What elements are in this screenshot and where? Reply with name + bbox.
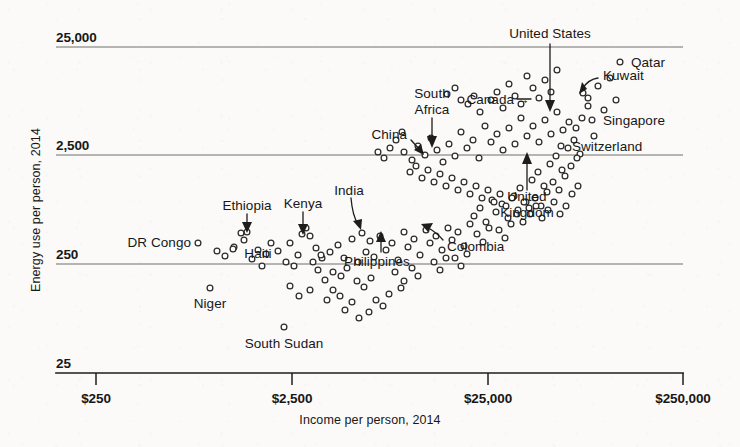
data-point [443, 255, 449, 261]
data-point [405, 244, 411, 250]
data-point [542, 77, 548, 83]
data-point [589, 117, 595, 123]
data-point [437, 267, 443, 273]
data-point [386, 291, 392, 297]
data-point [446, 141, 452, 147]
data-point [512, 141, 518, 147]
y-tick-label-2500: 2,500 [56, 138, 89, 153]
annotation-leaders [242, 44, 598, 252]
y-tick-label-250: 250 [56, 247, 78, 262]
data-point [536, 95, 542, 101]
data-point [569, 191, 575, 197]
data-point [483, 219, 489, 225]
data-point [337, 293, 343, 299]
label-haiti: Haiti [244, 246, 271, 261]
data-point [508, 221, 514, 227]
data-point [491, 199, 497, 205]
data-point [471, 213, 477, 219]
data-point [563, 203, 569, 209]
label-united-states: United States [509, 26, 591, 41]
data-point [295, 252, 301, 258]
data-point [392, 269, 398, 275]
leader-india [351, 198, 358, 224]
y-tick-labels: 25,000 2,500 250 25 [56, 30, 97, 371]
data-point [275, 248, 281, 254]
data-point [417, 252, 423, 258]
data-points [195, 59, 623, 330]
data-point [398, 285, 404, 291]
data-point [439, 247, 445, 253]
data-point [411, 236, 417, 242]
label-south-sudan: South Sudan [245, 336, 324, 351]
label-india: India [334, 183, 364, 198]
data-point [479, 195, 485, 201]
arrowhead-india [353, 219, 362, 230]
data-point [238, 230, 244, 236]
data-point [324, 297, 330, 303]
label-canada-arrow: → [516, 92, 530, 107]
data-point [354, 278, 360, 284]
data-point [349, 299, 355, 305]
data-point [359, 230, 365, 236]
data-point [470, 137, 476, 143]
data-point [458, 129, 464, 135]
data-point [318, 252, 324, 258]
data-point [493, 209, 499, 215]
data-point [283, 259, 289, 265]
data-point [617, 59, 623, 65]
label-united-kingdom-2: Kingdom [500, 205, 554, 220]
data-point [207, 285, 213, 291]
data-point [458, 263, 464, 269]
data-point [452, 255, 458, 261]
data-point [330, 269, 336, 275]
data-point [568, 163, 574, 169]
data-point [287, 240, 293, 246]
data-point [431, 179, 437, 185]
label-south-africa-1: South [414, 86, 450, 101]
data-point [315, 267, 321, 273]
data-point [535, 169, 541, 175]
data-point [342, 307, 348, 313]
data-point [327, 249, 333, 255]
gridlines [56, 47, 683, 264]
label-dr-congo: DR Congo [128, 235, 191, 250]
data-point [356, 315, 362, 321]
data-point [322, 277, 328, 283]
data-point [434, 147, 440, 153]
data-point [361, 284, 367, 290]
data-point [419, 175, 425, 181]
data-point [585, 95, 591, 101]
data-point [431, 259, 437, 265]
x-tick-labels: $250 $2,500 $25,000 $250,000 [81, 391, 711, 406]
data-point [383, 247, 389, 253]
data-point [467, 221, 473, 227]
data-point [338, 273, 344, 279]
data-point [281, 324, 287, 330]
data-point [476, 155, 482, 161]
data-point [380, 303, 386, 309]
data-point [473, 183, 479, 189]
label-china: China [371, 127, 407, 142]
data-point [440, 159, 446, 165]
data-point [573, 125, 579, 131]
data-point [387, 145, 393, 151]
data-point [565, 145, 571, 151]
data-point [452, 85, 458, 91]
data-point [486, 225, 492, 231]
data-point [477, 205, 483, 211]
data-point [497, 191, 503, 197]
data-point [562, 173, 568, 179]
data-point [482, 123, 488, 129]
data-point [548, 131, 554, 137]
label-canada: Canada [466, 92, 514, 107]
data-point [407, 169, 413, 175]
data-point [409, 157, 415, 163]
data-point [409, 265, 415, 271]
data-point [259, 263, 265, 269]
data-point [291, 263, 297, 269]
arrowhead-south-africa [427, 136, 437, 148]
data-point [427, 240, 433, 246]
data-point [195, 240, 201, 246]
data-point [452, 153, 458, 159]
plot-canvas: 25,000 2,500 250 25 $250 $2,500 $25,000 … [0, 0, 740, 447]
